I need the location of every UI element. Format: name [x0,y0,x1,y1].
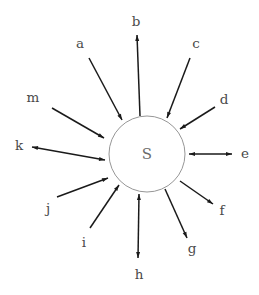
spoke-g-label: g [188,240,197,256]
spoke-i-line [90,185,119,228]
spoke-k-line [32,147,105,160]
spoke-g-arrowhead [183,232,187,238]
spoke-j [57,178,108,197]
spoke-m [52,108,104,138]
spoke-j-label: j [44,200,50,216]
spoke-h-label: h [135,266,144,282]
hub-label: S [142,145,152,163]
spoke-c [167,58,190,118]
spoke-c-line [167,58,190,118]
spoke-d-line [180,107,215,129]
spoke-f [180,181,213,204]
spoke-h [136,194,141,258]
spoke-a-label: a [76,35,84,51]
spoke-m-line [52,108,104,138]
spoke-c-label: c [192,35,200,51]
spoke-i-label: i [82,234,87,250]
spoke-a [89,58,122,120]
spoke-e [189,152,232,156]
radial-arrow-diagram: S abcdefghijkm [0,0,259,295]
diagram-canvas: S abcdefghijkm [0,0,259,295]
spoke-b-label: b [132,13,141,29]
spoke-j-line [57,178,108,197]
spoke-i [90,185,119,228]
spoke-e-label: e [241,145,249,161]
spoke-j-arrowhead [102,178,108,182]
spoke-d-label: d [220,91,229,107]
spoke-g-line [165,189,187,238]
spoke-h-arrowhead-reverse [137,194,141,200]
spoke-m-arrowhead [98,133,104,138]
spoke-e-arrowhead [226,152,232,156]
spoke-d [180,107,215,129]
spoke-a-line [89,58,122,120]
spoke-k [32,146,105,161]
spoke-h-line [138,194,139,258]
spoke-m-label: m [27,89,40,105]
spoke-f-line [180,181,213,204]
spoke-b-line [137,35,140,116]
spoke-f-label: f [220,202,226,218]
spoke-c-arrowhead [167,112,171,118]
spoke-g [165,189,187,238]
spoke-b [135,35,140,116]
spoke-e-arrowhead-reverse [189,152,195,156]
spoke-b-arrowhead [135,35,139,41]
spoke-a-arrowhead [117,114,122,120]
spoke-k-label: k [15,137,24,153]
spoke-h-arrowhead [136,252,140,258]
